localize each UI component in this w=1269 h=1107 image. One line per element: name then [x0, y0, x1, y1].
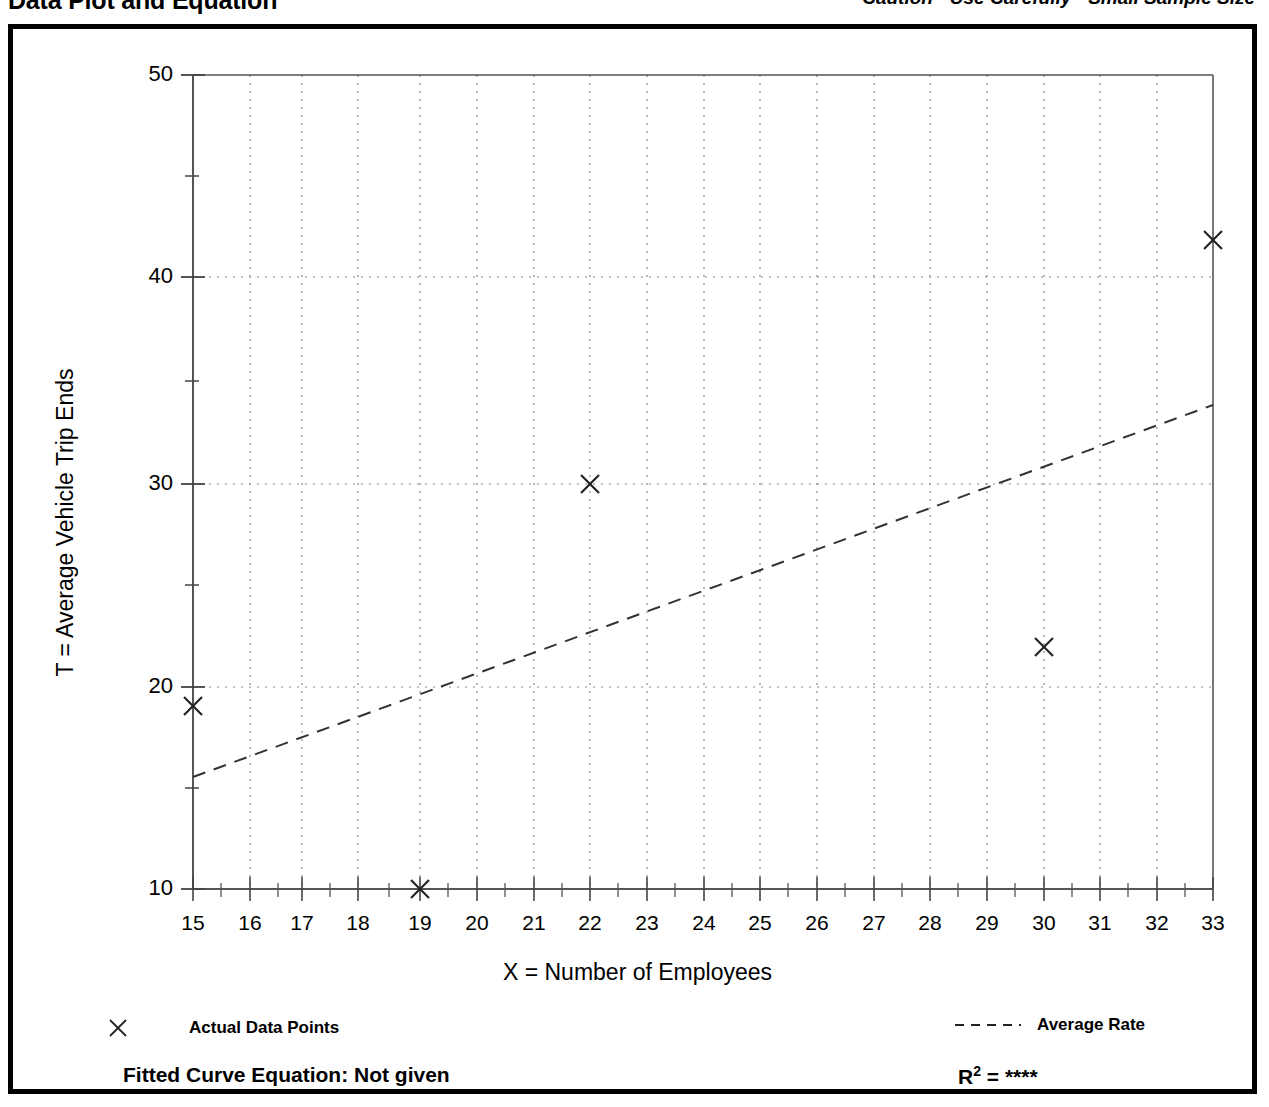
fitted-curve-equation: Fitted Curve Equation: Not given [123, 1063, 450, 1087]
x-marker-icon [105, 1015, 175, 1041]
plot-area: 50 40 30 20 10 15 16 17 18 19 20 21 22 2… [13, 29, 1262, 1099]
page-header: Data Plot and Equation Caution - Use Car… [0, 0, 1269, 22]
chart-footer: Fitted Curve Equation: Not given R2 = **… [13, 1063, 1262, 1103]
horizontal-gridlines [193, 277, 1213, 687]
legend-item-average-rate: Average Rate [953, 1015, 1145, 1035]
x-tick-label: 21 [509, 911, 559, 935]
legend-item-actual-data-points: Actual Data Points [105, 1015, 339, 1041]
r-squared-exponent: 2 [973, 1063, 981, 1079]
y-tick-label: 40 [113, 263, 173, 289]
y-tick-label: 10 [113, 875, 173, 901]
x-tick-label: 24 [679, 911, 729, 935]
y-tick-label: 30 [113, 470, 173, 496]
chart-panel: 50 40 30 20 10 15 16 17 18 19 20 21 22 2… [8, 24, 1257, 1094]
average-rate-trend-line [193, 405, 1213, 777]
x-tick-label: 27 [849, 911, 899, 935]
x-tick-label: 15 [168, 911, 218, 935]
data-point-marker [1035, 638, 1053, 656]
r-squared-equals: = [981, 1065, 1005, 1088]
plot-frame [193, 75, 1213, 889]
data-point-markers [184, 231, 1222, 898]
y-tick-label: 50 [113, 61, 173, 87]
y-tick-label: 20 [113, 673, 173, 699]
vertical-gridlines [250, 75, 1157, 889]
dashed-line-icon [953, 1018, 1023, 1032]
page-title: Data Plot and Equation [8, 0, 277, 15]
x-tick-label: 23 [622, 911, 672, 935]
r-squared-symbol: R [958, 1065, 973, 1088]
x-tick-label: 29 [962, 911, 1012, 935]
scatter-plot-graphic [13, 29, 1262, 1099]
x-tick-label: 33 [1188, 911, 1238, 935]
x-tick-label: 31 [1075, 911, 1125, 935]
x-tick-label: 16 [225, 911, 275, 935]
x-tick-label: 22 [565, 911, 615, 935]
r-squared-value: R2 = **** [958, 1063, 1038, 1089]
x-tick-label: 17 [277, 911, 327, 935]
r-squared-stars: **** [1005, 1065, 1038, 1088]
x-tick-label: 28 [905, 911, 955, 935]
x-tick-label: 26 [792, 911, 842, 935]
x-tick-label: 18 [333, 911, 383, 935]
data-point-marker [581, 475, 599, 493]
y-axis-title: T = Average Vehicle Trip Ends [52, 323, 79, 723]
caution-note: Caution - Use Carefully - Small Sample S… [862, 0, 1255, 9]
x-tick-label: 25 [735, 911, 785, 935]
legend-label-average-rate: Average Rate [1037, 1015, 1145, 1035]
x-axis-title: X = Number of Employees [13, 959, 1262, 986]
x-tick-label: 32 [1132, 911, 1182, 935]
legend-label-actual-data-points: Actual Data Points [189, 1018, 339, 1038]
x-tick-label: 30 [1019, 911, 1069, 935]
x-tick-label: 19 [395, 911, 445, 935]
x-tick-label: 20 [452, 911, 502, 935]
